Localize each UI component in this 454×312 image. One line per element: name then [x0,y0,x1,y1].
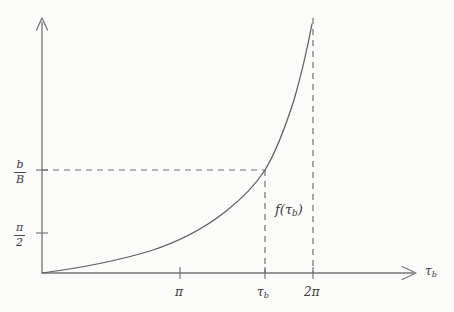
x-tick-label-tau-b-subscript: b [264,290,269,300]
y-tick-label-pi-over-2-denominator: 2 [14,235,25,249]
x-tick-label-pi-text: π [175,285,183,299]
x-axis-label-text: τ [425,264,432,278]
curve-annotation-tail: ) [298,202,303,217]
plot-canvas [0,0,454,312]
curve-annotation-head: f(τ [275,202,292,217]
x-tick-label-two-pi-text: 2π [304,285,320,299]
y-tick-label-pi-over-2-numerator: π [14,222,25,235]
x-tick-label-pi: π [175,286,183,298]
x-tick-label-tau-b-text: τ [257,285,264,299]
curve-annotation-f-of-tau-b: f(τb) [275,203,303,218]
x-axis-label: τb [425,265,437,278]
y-tick-label-b-over-B-numerator: b [14,159,26,172]
x-axis-label-subscript: b [432,269,437,279]
function-plot-figure: b B π 2 π τb 2π τb f(τb) [0,0,454,312]
x-tick-label-tau-b: τb [257,286,269,299]
function-curve [42,24,312,273]
y-tick-label-b-over-B: b B [14,159,26,186]
x-tick-label-two-pi: 2π [304,286,320,298]
y-tick-label-b-over-B-denominator: B [14,172,26,186]
y-tick-label-pi-over-2: π 2 [14,222,25,249]
